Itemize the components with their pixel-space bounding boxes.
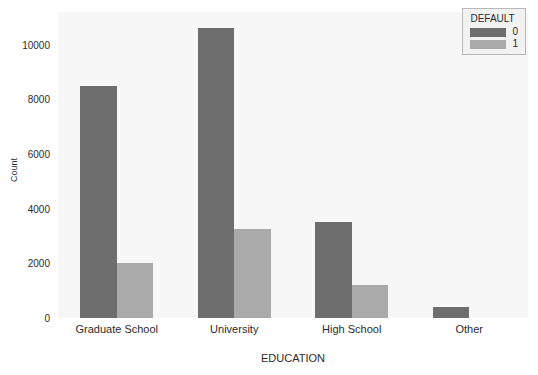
legend-item[interactable]: 0 bbox=[470, 27, 518, 37]
y-axis-tick: 2000 bbox=[28, 258, 50, 269]
bar bbox=[352, 285, 388, 318]
x-axis-tick: High School bbox=[322, 323, 381, 335]
bar bbox=[234, 229, 270, 318]
y-axis-tick: 10000 bbox=[22, 39, 50, 50]
y-axis-label: Count bbox=[9, 140, 19, 200]
legend-title: DEFAULT bbox=[470, 13, 518, 24]
x-axis-tick: Other bbox=[455, 323, 483, 335]
legend-swatch-icon bbox=[470, 28, 506, 37]
y-axis: Count 0200040006000800010000 bbox=[0, 0, 58, 375]
bar bbox=[80, 86, 116, 318]
chart-figure: Count 0200040006000800010000 Graduate Sc… bbox=[0, 0, 538, 375]
legend-entries: 01 bbox=[470, 27, 518, 49]
y-axis-tick: 8000 bbox=[28, 94, 50, 105]
legend-swatch-icon bbox=[470, 40, 506, 49]
bars-layer bbox=[58, 12, 528, 318]
bar bbox=[315, 222, 351, 318]
y-axis-tick: 0 bbox=[44, 313, 50, 324]
legend: DEFAULT 01 bbox=[462, 8, 526, 55]
y-axis-tick: 4000 bbox=[28, 203, 50, 214]
bar bbox=[198, 28, 234, 318]
legend-item-label: 1 bbox=[512, 39, 518, 49]
bar bbox=[117, 263, 153, 318]
x-axis-label: EDUCATION bbox=[58, 352, 528, 364]
x-axis-tick: University bbox=[210, 323, 258, 335]
plot-area bbox=[58, 12, 528, 318]
x-axis-tick: Graduate School bbox=[75, 323, 158, 335]
bar bbox=[433, 307, 469, 318]
legend-item-label: 0 bbox=[512, 27, 518, 37]
y-axis-tick: 6000 bbox=[28, 149, 50, 160]
legend-item[interactable]: 1 bbox=[470, 39, 518, 49]
